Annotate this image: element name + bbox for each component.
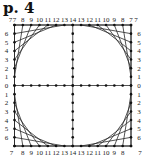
right-label: 4 (137, 47, 141, 55)
bottom-label: 7 (10, 149, 14, 157)
peg-dot (113, 24, 116, 27)
peg-dot (13, 67, 16, 70)
peg-dot (71, 84, 74, 87)
bottom-label: 7 (138, 149, 142, 157)
peg-dot (63, 145, 66, 148)
peg-dot (71, 136, 74, 139)
peg-dot (13, 136, 16, 139)
peg-dot (130, 145, 133, 148)
peg-dot (71, 119, 74, 122)
top-label: 9 (113, 16, 117, 24)
top-label: 7 (13, 16, 17, 24)
right-label: 0 (137, 82, 141, 90)
peg-dot (80, 24, 83, 27)
peg-dot (130, 101, 133, 104)
peg-dot (130, 127, 133, 130)
left-label: 3 (5, 56, 9, 64)
peg-dot (13, 41, 16, 44)
top-label: 11 (44, 16, 51, 24)
bottom-label: 13 (61, 149, 69, 157)
string-art-diagram: 7891011121314131211109877891011121314131… (0, 0, 145, 160)
right-label: 6 (137, 134, 141, 142)
peg-dot (46, 145, 49, 148)
bottom-label: 8 (121, 149, 125, 157)
left-label: 4 (5, 47, 9, 55)
peg-dot (63, 84, 66, 87)
peg-dot (130, 93, 133, 96)
right-label: 5 (137, 39, 141, 47)
peg-dot (71, 50, 74, 53)
peg-dot (113, 145, 116, 148)
peg-dot (130, 76, 133, 79)
peg-dot (13, 24, 16, 27)
peg-dot (71, 76, 74, 79)
peg-dot (13, 145, 16, 148)
peg-dot (13, 93, 16, 96)
peg-dot (22, 145, 25, 148)
peg-dot (130, 136, 133, 139)
peg-dot (38, 84, 41, 87)
peg-dot (30, 24, 33, 27)
peg-dot (130, 110, 133, 113)
peg-dot (80, 145, 83, 148)
peg-dot (13, 58, 16, 61)
top-label: 8 (121, 16, 125, 24)
peg-dot (130, 32, 133, 35)
left-label: 4 (5, 117, 9, 125)
peg-dot (38, 145, 41, 148)
peg-dot (30, 145, 33, 148)
peg-dot (121, 24, 124, 27)
peg-dot (46, 84, 49, 87)
bottom-label: 14 (69, 149, 77, 157)
peg-dot (55, 145, 58, 148)
right-label: 1 (137, 91, 141, 99)
top-label: 10 (103, 16, 111, 24)
bottom-label: 9 (29, 149, 33, 157)
peg-dot (130, 24, 133, 27)
peg-dot (22, 84, 25, 87)
right-label: 3 (137, 56, 141, 64)
peg-dot (105, 84, 108, 87)
peg-dot (130, 67, 133, 70)
bottom-label: 9 (113, 149, 117, 157)
left-label: 2 (5, 65, 9, 73)
peg-dot (71, 67, 74, 70)
peg-dot (13, 101, 16, 104)
peg-dot (13, 32, 16, 35)
left-label: 6 (5, 30, 9, 38)
left-label: 5 (5, 125, 9, 133)
peg-dot (121, 145, 124, 148)
right-label: 2 (137, 99, 141, 107)
peg-dot (121, 84, 124, 87)
peg-dot (71, 24, 74, 27)
peg-dot (130, 58, 133, 61)
peg-dot (55, 84, 58, 87)
peg-dot (22, 24, 25, 27)
peg-dot (13, 119, 16, 122)
right-label: 4 (137, 117, 141, 125)
bottom-label: 8 (21, 149, 25, 157)
top-label: 12 (53, 16, 61, 24)
peg-dot (71, 145, 74, 148)
right-label: 1 (137, 73, 141, 81)
peg-dot (71, 32, 74, 35)
peg-dot (71, 58, 74, 61)
peg-dot (130, 41, 133, 44)
peg-dot (96, 84, 99, 87)
left-label: 1 (5, 91, 9, 99)
bottom-label: 10 (103, 149, 111, 157)
peg-dot (13, 110, 16, 113)
peg-dot (71, 101, 74, 104)
peg-dot (13, 84, 16, 87)
bottom-label: 12 (53, 149, 61, 157)
peg-dot (88, 84, 91, 87)
left-label: 1 (5, 73, 9, 81)
left-label: 6 (5, 134, 9, 142)
right-label: 3 (137, 108, 141, 116)
right-label: 6 (137, 30, 141, 38)
peg-dot (71, 93, 74, 96)
peg-dot (105, 145, 108, 148)
peg-dot (13, 76, 16, 79)
top-label: 13 (61, 16, 69, 24)
left-label: 0 (5, 82, 9, 90)
